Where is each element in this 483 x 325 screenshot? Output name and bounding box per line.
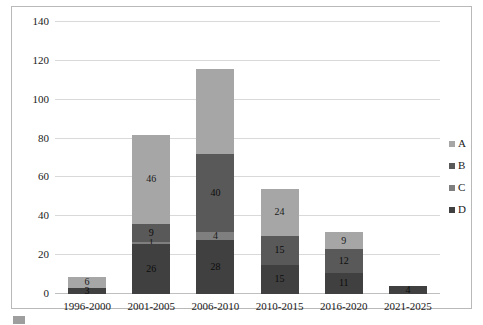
bar-stack[interactable]: 241515 bbox=[261, 189, 299, 294]
bar-value-label: 12 bbox=[339, 256, 349, 266]
y-axis-tick-label: 140 bbox=[33, 16, 50, 27]
bar-value-label: 26 bbox=[146, 264, 156, 274]
chart-legend: ABCD bbox=[449, 135, 483, 223]
bar-value-label: 24 bbox=[275, 207, 285, 217]
bar-segment-b[interactable]: 40 bbox=[196, 154, 234, 232]
legend-label: A bbox=[458, 138, 466, 149]
bar-segment-d[interactable]: 15 bbox=[261, 265, 299, 294]
legend-item-c[interactable]: C bbox=[449, 179, 483, 196]
bar-segment-d[interactable]: 4 bbox=[389, 286, 427, 294]
bar-group: 404282006-2010 bbox=[183, 22, 247, 294]
y-axis-tick-label: 120 bbox=[33, 54, 50, 65]
legend-item-a[interactable]: A bbox=[449, 135, 483, 152]
bar-value-label: 4 bbox=[405, 285, 410, 295]
bar-value-label: 28 bbox=[210, 262, 220, 272]
bar-stack[interactable]: 4 bbox=[389, 286, 427, 294]
bar-group: 912112016-2020 bbox=[312, 22, 376, 294]
legend-swatch-icon bbox=[449, 141, 455, 147]
legend-label: C bbox=[458, 182, 465, 193]
bar-segment-a[interactable]: 9 bbox=[325, 232, 363, 249]
bar-stack[interactable]: 91211 bbox=[325, 232, 363, 294]
y-axis-tick-label: 40 bbox=[38, 210, 49, 221]
y-axis-tick-label: 0 bbox=[44, 288, 50, 299]
bar-value-label: 15 bbox=[275, 245, 285, 255]
y-axis-tick-label: 80 bbox=[38, 132, 49, 143]
bar-group: 631996-2000 bbox=[55, 22, 119, 294]
bar-value-label: 3 bbox=[85, 286, 90, 296]
x-axis-tick-label: 2016-2020 bbox=[320, 301, 368, 312]
x-axis-tick-label: 2010-2015 bbox=[256, 301, 304, 312]
x-axis-tick-label: 2006-2010 bbox=[192, 301, 240, 312]
legend-swatch-icon bbox=[449, 185, 455, 191]
caption-figure-icon bbox=[13, 316, 25, 324]
legend-label: B bbox=[458, 160, 465, 171]
caption-strip bbox=[11, 313, 472, 325]
y-axis-tick-label: 20 bbox=[38, 249, 49, 260]
bar-stack[interactable]: 40428 bbox=[196, 69, 234, 294]
legend-label: D bbox=[458, 204, 466, 215]
legend-swatch-icon bbox=[449, 207, 455, 213]
bar-segment-d[interactable]: 28 bbox=[196, 240, 234, 294]
bar-group: 2415152010-2015 bbox=[248, 22, 312, 294]
bar-segment-b[interactable]: 12 bbox=[325, 249, 363, 272]
chart-frame: 020406080100120140 631996-20004691262001… bbox=[11, 6, 472, 309]
x-axis-tick-label: 2021-2025 bbox=[384, 301, 432, 312]
bar-value-label: 40 bbox=[210, 188, 220, 198]
bar-value-label: 15 bbox=[275, 274, 285, 284]
y-axis-tick-label: 60 bbox=[38, 171, 49, 182]
legend-swatch-icon bbox=[449, 163, 455, 169]
bar-segment-a[interactable] bbox=[196, 69, 234, 154]
bar-segment-d[interactable]: 11 bbox=[325, 273, 363, 294]
bar-segment-d[interactable]: 3 bbox=[68, 288, 106, 294]
bar-value-label: 46 bbox=[146, 174, 156, 184]
bar-value-label: 9 bbox=[341, 236, 346, 246]
bar-stack[interactable]: 63 bbox=[68, 277, 106, 294]
bar-value-label: 11 bbox=[339, 278, 349, 288]
x-axis-tick-label: 2001-2005 bbox=[127, 301, 175, 312]
x-axis-tick-label: 1996-2000 bbox=[63, 301, 111, 312]
bar-segment-a[interactable]: 46 bbox=[132, 135, 170, 224]
legend-item-d[interactable]: D bbox=[449, 201, 483, 218]
legend-item-b[interactable]: B bbox=[449, 157, 483, 174]
bar-segment-a[interactable]: 24 bbox=[261, 189, 299, 236]
bar-series-container: 631996-20004691262001-2005404282006-2010… bbox=[55, 22, 440, 294]
bar-segment-d[interactable]: 26 bbox=[132, 244, 170, 295]
y-axis-tick-label: 100 bbox=[33, 93, 50, 104]
bar-segment-c[interactable]: 4 bbox=[196, 232, 234, 240]
plot-area: 020406080100120140 631996-20004691262001… bbox=[55, 22, 440, 294]
bar-group: 4691262001-2005 bbox=[119, 22, 183, 294]
bar-segment-b[interactable]: 15 bbox=[261, 236, 299, 265]
bar-group: 42021-2025 bbox=[376, 22, 440, 294]
bar-stack[interactable]: 469126 bbox=[132, 135, 170, 294]
